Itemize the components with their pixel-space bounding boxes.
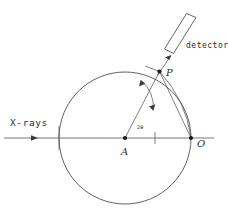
- point-marker-p: [157, 69, 161, 73]
- beam-direction-arrowhead: [31, 135, 38, 141]
- chord-line-p-to-o: [160, 72, 192, 139]
- diffracted-beam-arrowhead: [165, 55, 172, 60]
- point-label-a: A: [120, 146, 128, 157]
- xrays-label: X-rays: [10, 117, 48, 128]
- point-marker-o: [189, 136, 193, 140]
- detector-label: detector: [186, 41, 228, 50]
- incident-stub-at-p: [145, 66, 160, 72]
- point-marker-a: [123, 136, 127, 140]
- point-label-p: P: [165, 67, 173, 78]
- angle-arc-arrowhead-lower: [149, 104, 155, 110]
- angle-label-2theta: 2θ: [137, 124, 144, 130]
- point-label-o: O: [197, 138, 205, 149]
- xrd-geometry-diagram: X-rays detector P A O 2θ: [0, 0, 228, 215]
